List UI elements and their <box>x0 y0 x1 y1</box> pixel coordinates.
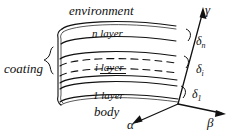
axis-label-alpha: α <box>127 118 134 131</box>
thickness-label-delta-1: δ1 <box>192 88 202 103</box>
label-i-layer-underline <box>100 73 126 74</box>
alpha-axis-line <box>137 104 178 122</box>
label-environment: environment <box>69 4 134 17</box>
coating-brace <box>44 47 53 74</box>
thickness-label-delta-n: δn <box>196 35 206 50</box>
coating-layers-diagram: environment coating body n layer i layer… <box>0 0 233 136</box>
label-n-layer: n layer <box>92 28 123 39</box>
layer-boundary-i-top-solid <box>60 52 176 59</box>
delta-n-subscript: n <box>202 41 206 50</box>
axis-label-gamma: γ <box>205 3 210 16</box>
delta-i-subscript: i <box>202 69 204 78</box>
tick-delta-n <box>186 29 190 41</box>
axis-label-beta: β <box>207 116 213 129</box>
beta-axis-line <box>178 104 221 113</box>
thickness-label-delta-i: δi <box>196 63 204 78</box>
tick-delta-i <box>184 56 188 68</box>
beta-axis-arrowhead <box>215 110 226 117</box>
label-i-layer: i layer <box>95 62 123 73</box>
label-1-layer: 1 layer <box>93 90 124 101</box>
layer-boundary-1-top <box>60 82 177 89</box>
axis-triad <box>132 7 226 124</box>
label-body: body <box>94 105 119 118</box>
label-coating: coating <box>4 62 43 75</box>
delta-1-subscript: 1 <box>198 94 202 103</box>
